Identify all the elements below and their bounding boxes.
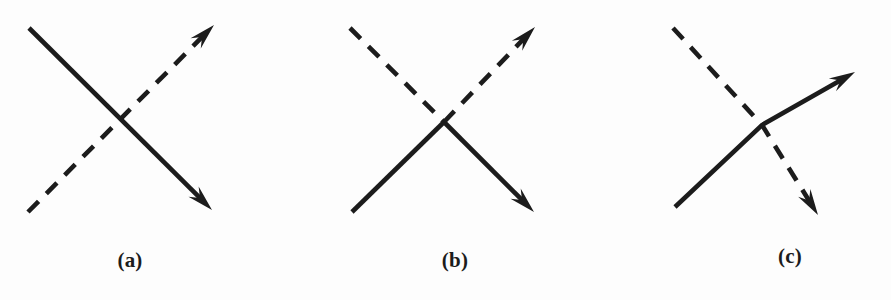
panel-b-solid-incoming-lower-left <box>352 122 444 212</box>
arrowhead <box>829 72 855 91</box>
dashed-bent-line-downright-shaft <box>673 28 810 201</box>
arrowhead <box>512 27 535 51</box>
solid-bent-line-upright-shaft <box>675 80 841 207</box>
figure-container: (a) (b) (c) <box>0 0 891 300</box>
panel-b-group <box>350 27 535 212</box>
solid-line-downright-shaft <box>29 28 201 199</box>
solid-incoming-lower-left-shaft <box>352 122 444 212</box>
panel-label-b: (b) <box>425 248 485 273</box>
panel-label-a: (a) <box>100 248 160 273</box>
solid-outgoing-lower-right-shaft <box>444 122 523 201</box>
dashed-line-upright-shaft <box>28 36 203 212</box>
dashed-outgoing-upper-right-shaft <box>444 39 524 122</box>
panel-a-group <box>28 25 214 212</box>
panel-b-dashed-outgoing-upper-right <box>444 27 535 122</box>
dashed-incoming-upper-left-shaft <box>350 28 444 122</box>
panel-b-dashed-incoming-upper-left <box>350 28 444 122</box>
panel-c-solid-bent-line-upright <box>675 72 855 207</box>
panel-c-group <box>673 28 855 215</box>
panel-b-solid-outgoing-lower-right <box>444 122 534 212</box>
arrowhead <box>798 189 818 215</box>
panel-label-c: (c) <box>760 244 820 269</box>
